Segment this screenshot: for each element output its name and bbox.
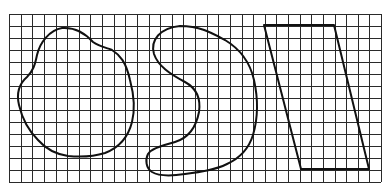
grid-figure	[0, 0, 387, 193]
